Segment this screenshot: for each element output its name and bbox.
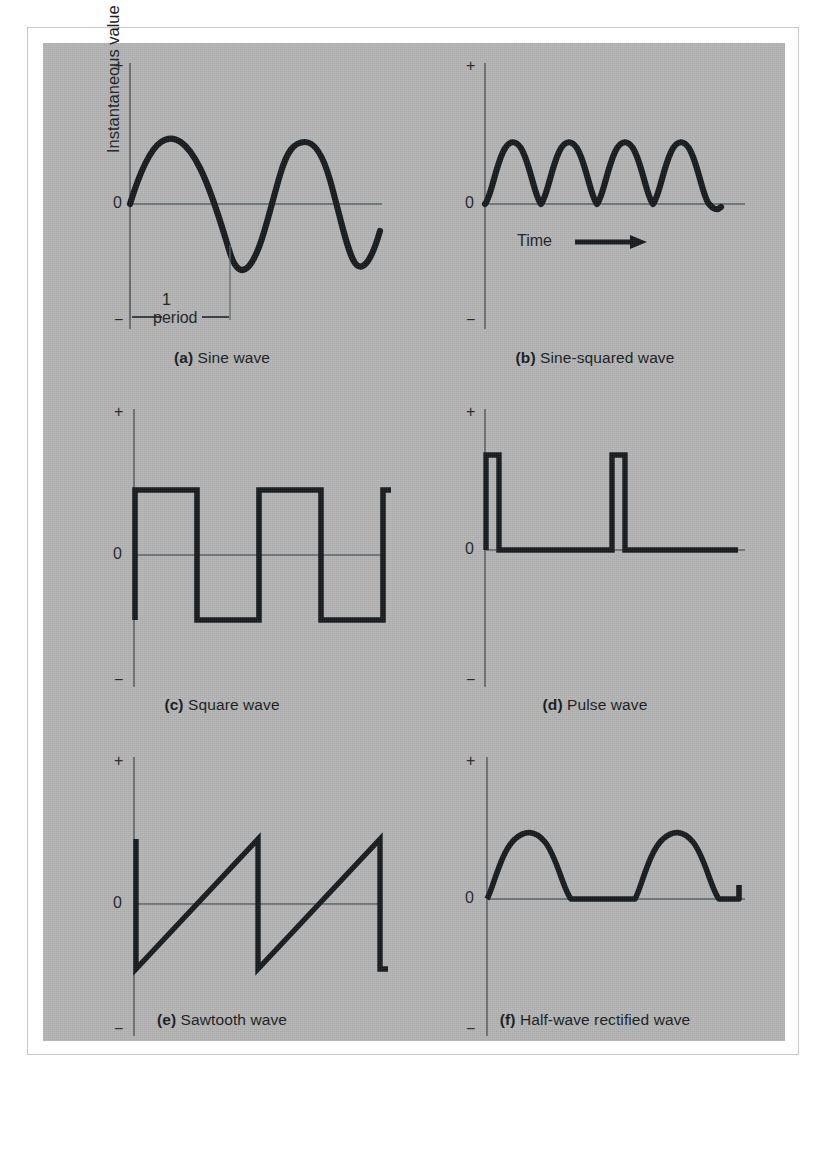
half-wave-rectified-plot — [425, 743, 765, 1043]
panel-square-wave: + 0 − (c) Square wave — [52, 391, 392, 721]
axis-zero-label-a: 0 — [113, 195, 122, 211]
figure-root: Instantaneous value + 0 − 1 period (a) S… — [0, 0, 822, 1150]
caption-pulse-wave: (d) Pulse wave — [425, 696, 765, 714]
caption-sawtooth-wave: (e) Sawtooth wave — [52, 1011, 392, 1029]
sine-squared-wave-plot — [425, 45, 765, 375]
axis-zero-label-f: 0 — [465, 890, 474, 906]
panel-pulse-wave: + 0 − (d) Pulse wave — [425, 391, 765, 721]
sine-wave-plot — [52, 45, 392, 375]
axis-plus-sign-d: + — [466, 404, 475, 420]
x-axis-time-label: Time — [517, 232, 552, 250]
axis-zero-label-d: 0 — [465, 541, 474, 557]
axis-minus-sign-c: − — [114, 672, 123, 688]
time-arrow-head — [630, 235, 647, 249]
axis-plus-sign-c: + — [114, 404, 123, 420]
axis-plus-sign-a: + — [114, 58, 123, 74]
sawtooth-wave-plot — [52, 743, 392, 1043]
half-wave-rectified-curve — [487, 833, 739, 899]
caption-sine-squared-wave: (b) Sine-squared wave — [425, 349, 765, 367]
period-number-label: 1 — [162, 291, 171, 309]
axis-plus-sign-e: + — [114, 753, 123, 769]
sine-squared-wave-curve — [485, 142, 721, 209]
caption-half-wave-rectified-wave: (f) Half-wave rectified wave — [425, 1011, 765, 1029]
panel-sine-wave: Instantaneous value + 0 − 1 period (a) S… — [52, 45, 392, 375]
pulse-wave-curve — [486, 455, 738, 550]
axis-minus-sign-a: − — [114, 312, 123, 328]
panel-half-wave-rectified-wave: + 0 − (f) Half-wave rectified wave — [425, 743, 765, 1038]
caption-square-wave: (c) Square wave — [52, 696, 392, 714]
caption-sine-wave: (a) Sine wave — [52, 349, 392, 367]
pulse-wave-plot — [425, 391, 765, 721]
y-axis-label: Instantaneous value — [104, 0, 123, 153]
panel-sawtooth-wave: + 0 − (e) Sawtooth wave — [52, 743, 392, 1038]
axis-minus-sign-b: − — [466, 312, 475, 328]
square-wave-plot — [52, 391, 392, 721]
axis-zero-label-e: 0 — [113, 895, 122, 911]
axis-plus-sign-b: + — [466, 58, 475, 74]
axis-zero-label-b: 0 — [465, 195, 474, 211]
axis-zero-label-c: 0 — [113, 546, 122, 562]
figure-gray-panel: Instantaneous value + 0 − 1 period (a) S… — [43, 43, 785, 1041]
axis-plus-sign-f: + — [466, 753, 475, 769]
axis-minus-sign-d: − — [466, 672, 475, 688]
panel-sine-squared-wave: + 0 − Time (b) Sine-squared wave — [425, 45, 765, 375]
period-word-label: period — [153, 309, 197, 327]
